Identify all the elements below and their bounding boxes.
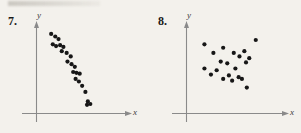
data-point <box>209 72 213 76</box>
y-axis-arrow-7 <box>34 21 39 28</box>
data-point <box>80 84 84 88</box>
y-axis-arrow-8 <box>184 21 189 28</box>
data-point <box>232 51 236 55</box>
x-axis-arrow-8 <box>282 111 289 116</box>
data-point <box>69 62 73 66</box>
data-point <box>244 60 248 64</box>
data-point <box>230 79 234 83</box>
scatter-plot-8 <box>150 0 300 133</box>
data-point <box>227 73 231 77</box>
data-point <box>49 32 53 36</box>
data-point <box>69 54 73 58</box>
data-point <box>60 49 64 53</box>
data-point <box>221 77 225 81</box>
data-point <box>245 85 249 89</box>
data-point-group-8 <box>202 38 258 90</box>
data-point <box>219 60 223 64</box>
data-point <box>202 66 206 70</box>
data-point <box>83 90 87 94</box>
data-point <box>202 42 206 46</box>
data-point <box>215 68 219 72</box>
exercise-panel-7: 7. y x <box>0 0 150 133</box>
data-point <box>77 79 81 83</box>
data-point <box>65 51 69 55</box>
data-point-group-7 <box>49 32 92 107</box>
data-point <box>237 54 241 58</box>
data-point <box>56 37 60 41</box>
data-point <box>65 60 69 64</box>
data-point <box>233 66 237 70</box>
data-point <box>53 34 57 38</box>
scatter-plot-7 <box>0 0 150 133</box>
data-point <box>78 72 82 76</box>
worksheet-page: 7. y x 8. y x <box>0 0 301 133</box>
data-point <box>254 38 258 42</box>
data-point <box>54 44 58 48</box>
data-point <box>73 65 77 69</box>
data-point <box>211 51 215 55</box>
data-point <box>225 61 229 65</box>
data-point <box>74 77 78 81</box>
data-point <box>240 77 244 81</box>
data-point <box>242 49 246 53</box>
data-point <box>85 103 89 107</box>
data-point <box>221 46 225 50</box>
data-point <box>247 56 251 60</box>
data-point <box>61 45 65 49</box>
x-axis-arrow-7 <box>125 111 132 116</box>
exercise-panel-8: 8. y x <box>150 0 300 133</box>
